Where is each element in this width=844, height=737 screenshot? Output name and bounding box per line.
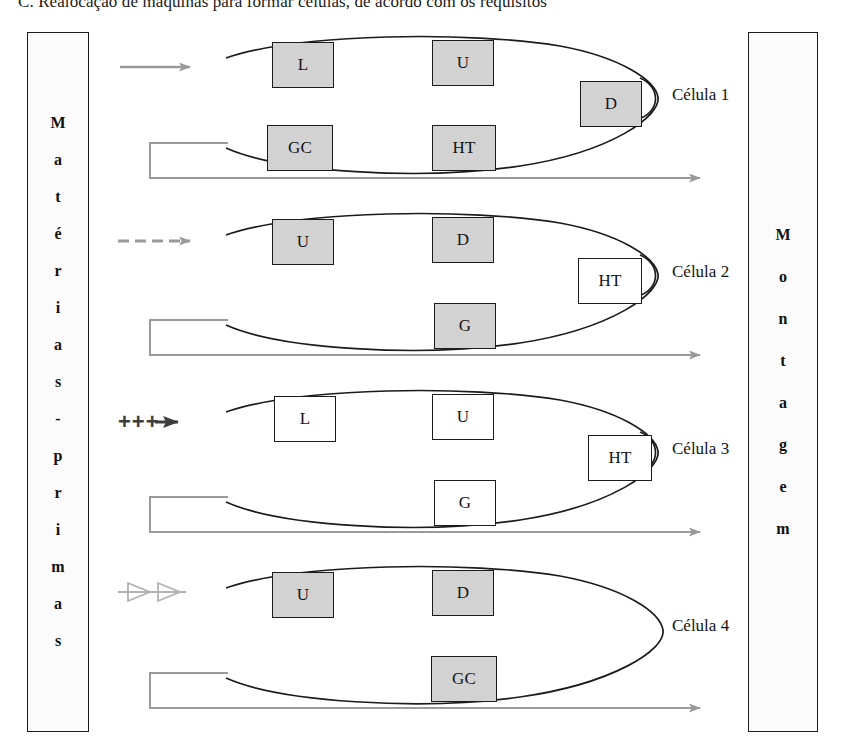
cell-4-output-flow xyxy=(150,673,700,708)
machine-box: U xyxy=(432,394,494,440)
panel-letter: s xyxy=(55,374,61,390)
panel-letter: s xyxy=(55,633,61,649)
panel-letter: t xyxy=(780,353,785,369)
machine-box: HT xyxy=(578,258,642,304)
panel-letter: i xyxy=(56,300,60,316)
machine-box: G xyxy=(434,480,496,526)
panel-letter: - xyxy=(55,411,60,427)
cell-label: Célula 1 xyxy=(672,85,729,105)
raw-materials-panel: M a t é r i a s - p r i m a s xyxy=(27,32,89,732)
machine-box: GC xyxy=(431,656,497,702)
panel-letter: t xyxy=(55,189,60,205)
machine-box: GC xyxy=(267,125,333,171)
machine-box: D xyxy=(580,81,642,127)
machine-box: L xyxy=(274,396,336,442)
machine-box: U xyxy=(272,219,334,265)
machine-box: L xyxy=(272,42,334,88)
panel-letter: a xyxy=(54,337,62,353)
panel-letter: i xyxy=(56,522,60,538)
machine-box: HT xyxy=(432,125,496,171)
machine-box: U xyxy=(272,572,334,618)
cell-4-input-arrow xyxy=(118,583,186,601)
machine-box: U xyxy=(432,40,494,86)
cell-3-input-plus-glyph: +++ xyxy=(118,409,160,435)
machine-box: D xyxy=(432,217,494,263)
machine-box: G xyxy=(434,303,496,349)
machine-box: D xyxy=(432,570,494,616)
panel-letter: r xyxy=(54,485,61,501)
cell-label: Célula 2 xyxy=(672,262,729,282)
machine-box: HT xyxy=(588,435,652,481)
panel-letter: r xyxy=(54,263,61,279)
panel-letter: p xyxy=(54,448,63,464)
cell-label: Célula 4 xyxy=(672,616,729,636)
panel-letter: a xyxy=(54,596,62,612)
panel-letter: m xyxy=(776,521,789,537)
panel-letter: a xyxy=(779,395,787,411)
panel-letter: e xyxy=(779,479,786,495)
panel-letter: é xyxy=(54,226,61,242)
assembly-panel: M o n t a g e m xyxy=(748,32,818,732)
panel-letter: g xyxy=(779,437,787,453)
cell-layout-diagram: M a t é r i a s - p r i m a s M o n t a … xyxy=(0,0,844,737)
panel-letter: m xyxy=(51,559,64,575)
panel-letter: M xyxy=(50,115,65,131)
cell-4-group xyxy=(150,567,700,708)
cell-label: Célula 3 xyxy=(672,439,729,459)
panel-letter: o xyxy=(779,269,787,285)
plus-symbols: +++ xyxy=(118,411,160,433)
panel-letter: a xyxy=(54,152,62,168)
panel-letter: M xyxy=(775,227,790,243)
panel-letter: n xyxy=(779,311,788,327)
